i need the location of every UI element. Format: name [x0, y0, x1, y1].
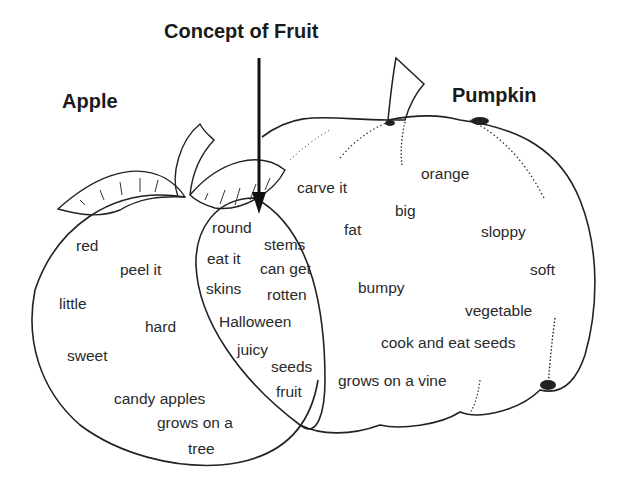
- shared-word: fruit: [276, 384, 302, 400]
- shared-word: eat it: [207, 251, 241, 267]
- shared-word: Halloween: [219, 314, 291, 330]
- apple-word: hard: [145, 319, 176, 335]
- pumpkin-word: sloppy: [481, 224, 526, 240]
- apple-stem: [175, 124, 214, 197]
- pumpkin-word: grows on a vine: [338, 373, 447, 389]
- shared-word: juicy: [237, 342, 268, 358]
- shared-word: round: [212, 220, 252, 236]
- apple-word: grows on a: [157, 415, 233, 431]
- shared-word: can get: [260, 261, 311, 277]
- apple-word: candy apples: [114, 391, 205, 407]
- shared-word: rotten: [267, 287, 307, 303]
- pumpkin-word: cook and eat seeds: [381, 335, 515, 351]
- pumpkin-word: orange: [421, 166, 469, 182]
- pumpkin-word: carve it: [297, 180, 347, 196]
- apple-leaf-right: [190, 160, 285, 209]
- apple-word: red: [76, 238, 98, 254]
- pumpkin-title: Pumpkin: [452, 84, 536, 107]
- pumpkin-word: fat: [344, 222, 361, 238]
- pumpkin-word: big: [395, 203, 416, 219]
- shared-word: stems: [264, 237, 305, 253]
- apple-word: sweet: [67, 348, 108, 364]
- shared-word: seeds: [271, 359, 312, 375]
- apple-word: tree: [188, 441, 215, 457]
- pumpkin-word: vegetable: [465, 303, 532, 319]
- pumpkin-stem: [388, 58, 424, 120]
- shared-word: skins: [206, 281, 241, 297]
- pumpkin-word: soft: [530, 262, 555, 278]
- apple-word: little: [59, 296, 87, 312]
- apple-word: peel it: [120, 262, 161, 278]
- apple-title: Apple: [62, 90, 118, 113]
- pumpkin-word: bumpy: [358, 280, 405, 296]
- concept-of-fruit-title: Concept of Fruit: [164, 20, 318, 43]
